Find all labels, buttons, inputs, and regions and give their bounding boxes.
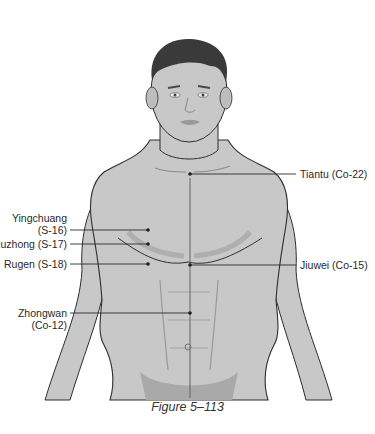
- right-ear: [220, 87, 232, 109]
- point-jiuwei-dot: [188, 263, 192, 267]
- label-zhongwan-code: (Co-12): [18, 319, 67, 331]
- label-yingchuang-name: Yingchuang: [12, 212, 67, 224]
- point-zhongwan-dot: [188, 311, 192, 315]
- label-ruzhong: Ruzhong (S-17): [0, 238, 67, 250]
- point-tiantu-dot: [188, 172, 192, 176]
- torso: [91, 140, 288, 400]
- label-rugen: Rugen (S-18): [4, 258, 67, 270]
- label-jiuwei: Jiuwei (Co-15): [300, 259, 368, 271]
- point-yingchuang-dot: [146, 228, 150, 232]
- figure-caption: Figure 5–113: [0, 400, 375, 414]
- label-yingchuang: Yingchuang (S-16): [12, 212, 67, 236]
- label-tiantu: Tiantu (Co-22): [300, 168, 367, 180]
- point-rugen-dot: [146, 262, 150, 266]
- label-zhongwan-name: Zhongwan: [18, 307, 67, 319]
- label-yingchuang-code: (S-16): [12, 224, 67, 236]
- point-ruzhong-dot: [146, 242, 150, 246]
- left-ear: [146, 87, 158, 109]
- label-zhongwan: Zhongwan (Co-12): [18, 307, 67, 331]
